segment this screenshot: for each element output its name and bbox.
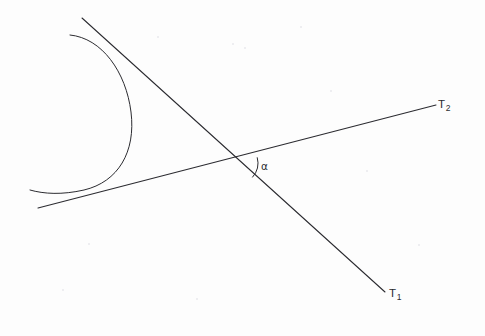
angle-marker-arc [253,158,258,177]
tangent-line-1-label-subscript: 1 [397,292,402,302]
geometry-figure: T2 T1 α [0,0,485,336]
tangent-line-2-label-base: T [438,98,445,110]
tangent-line-2-label: T2 [438,99,450,111]
tangent-line-2 [38,105,436,208]
tangent-line-1-label-base: T [389,287,396,299]
tangent-line-1-label: T1 [389,288,401,300]
angle-alpha-label: α [261,161,268,172]
tangent-line-2-label-subscript: 2 [446,103,451,113]
tangent-line-1 [82,18,385,292]
figure-canvas [0,0,485,336]
circular-arc [30,35,132,193]
